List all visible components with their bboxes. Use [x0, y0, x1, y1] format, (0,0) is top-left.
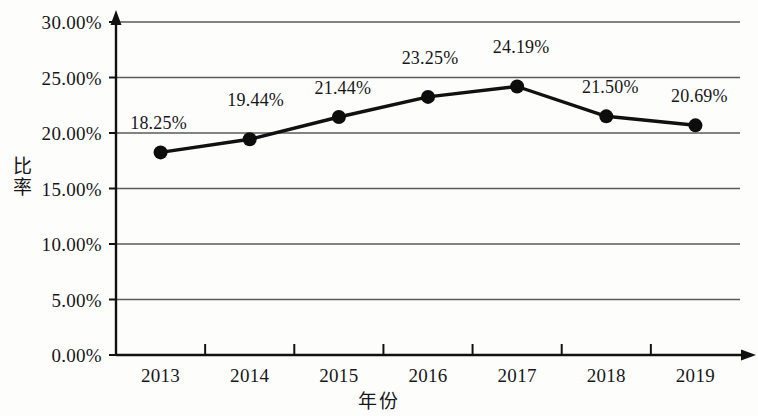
- x-axis-tick-label: 2013: [141, 366, 180, 385]
- data-point-marker: [688, 118, 702, 132]
- chart-canvas: [0, 0, 758, 416]
- data-point-label: 18.25%: [130, 114, 187, 132]
- x-tick-group: [205, 344, 651, 355]
- data-point-marker: [510, 79, 524, 93]
- data-point-marker: [154, 145, 168, 159]
- x-axis-tick-label: 2016: [408, 366, 447, 385]
- data-point-marker: [243, 132, 257, 146]
- data-point-label: 24.19%: [493, 38, 550, 56]
- x-axis-tick-label: 2019: [676, 366, 715, 385]
- y-axis-tick-label: 30.00%: [0, 13, 102, 32]
- y-axis-tick-label: 0.00%: [0, 346, 102, 365]
- data-point-label: 21.50%: [582, 78, 639, 96]
- x-axis-tick-label: 2017: [498, 366, 537, 385]
- data-point-marker: [332, 110, 346, 124]
- data-point-marker: [421, 90, 435, 104]
- data-point-label: 21.44%: [314, 79, 371, 97]
- y-axis-tick-label: 20.00%: [0, 124, 102, 143]
- y-axis-tick-label: 10.00%: [0, 235, 102, 254]
- x-axis-arrow: [741, 350, 756, 361]
- y-axis-tick-label: 25.00%: [0, 68, 102, 87]
- data-point-label: 23.25%: [402, 49, 459, 67]
- y-axis-tick-label: 5.00%: [0, 290, 102, 309]
- y-axis-title: 比率: [4, 156, 30, 198]
- line-chart: 0.00%5.00%10.00%15.00%20.00%25.00%30.00%…: [0, 0, 758, 416]
- y-axis-arrow: [111, 10, 122, 25]
- x-axis-tick-label: 2018: [587, 366, 626, 385]
- data-point-marker: [599, 109, 613, 123]
- data-point-label: 19.44%: [227, 91, 284, 109]
- data-point-label: 20.69%: [671, 87, 728, 105]
- x-axis-title: 年份: [0, 392, 758, 411]
- x-axis-tick-label: 2014: [230, 366, 269, 385]
- x-axis-tick-label: 2015: [319, 366, 358, 385]
